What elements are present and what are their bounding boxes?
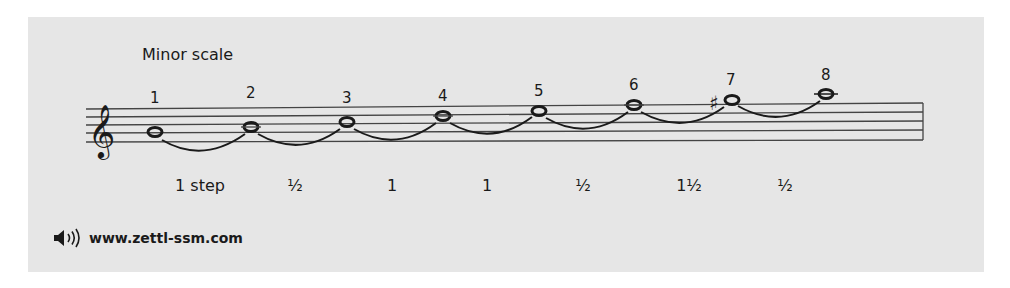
audio-link-url[interactable]: www.zettl-ssm.com — [89, 230, 243, 246]
note-4 — [433, 112, 453, 121]
interval-label: 1½ — [676, 176, 702, 195]
degree-label: 5 — [534, 82, 544, 100]
sharp-icon: ♯ — [709, 91, 719, 115]
interval-label: ½ — [777, 176, 793, 195]
interval-label: ½ — [575, 176, 591, 195]
note-7 — [725, 96, 739, 105]
speaker-icon — [53, 227, 83, 249]
degree-label: 7 — [726, 71, 736, 89]
treble-clef-icon: 𝄞 — [88, 104, 115, 160]
degree-label: 2 — [246, 84, 256, 102]
interval-label: 1 step — [175, 176, 225, 195]
audio-link[interactable]: www.zettl-ssm.com — [53, 227, 243, 249]
degree-label: 3 — [342, 89, 352, 107]
degree-label: 6 — [629, 76, 639, 94]
interval-label: 1 — [387, 176, 397, 195]
interval-label: 1 — [482, 176, 492, 195]
note-1 — [148, 128, 162, 137]
degree-label: 4 — [438, 87, 448, 105]
note-2 — [241, 123, 261, 132]
note-3 — [340, 118, 354, 127]
interval-label: ½ — [287, 176, 303, 195]
degree-label: 1 — [150, 89, 160, 107]
note-6 — [624, 101, 644, 110]
interval-slurs — [162, 101, 820, 151]
note-8 — [814, 90, 838, 99]
staff-lines — [86, 103, 923, 142]
degree-label: 8 — [821, 66, 831, 84]
note-5 — [532, 107, 546, 116]
